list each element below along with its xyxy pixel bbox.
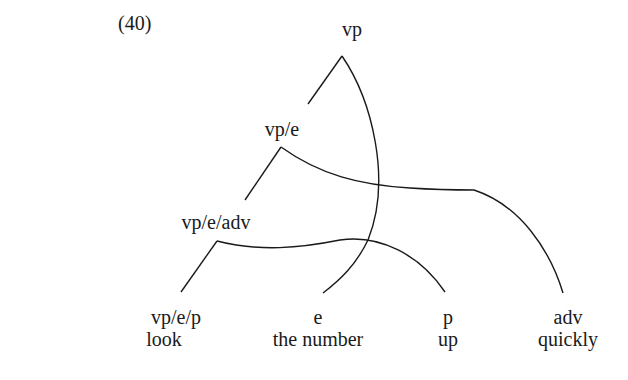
- tree-edges: [0, 0, 628, 380]
- edge-vp-e-to-vp-e-adv: [245, 147, 281, 200]
- edge-vp-to-e: [323, 56, 379, 293]
- edge-vp-to-vp-e: [308, 56, 342, 104]
- edge-vp-e-adv-to-vp-e-p: [181, 241, 217, 292]
- edge-vp-e-to-adv: [281, 147, 563, 293]
- edge-vp-e-adv-to-p: [217, 239, 445, 292]
